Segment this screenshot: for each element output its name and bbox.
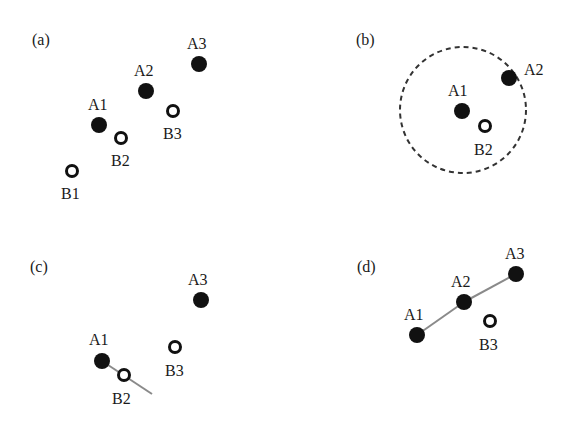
open-point-b3 [168,106,179,117]
point-label: B2 [474,141,493,158]
point-label: B3 [479,336,498,353]
open-point-b2 [480,121,491,132]
point-label: B3 [163,125,182,142]
point-label: B2 [111,152,130,169]
filled-point-a2 [138,83,154,99]
filled-point-a2 [501,70,517,86]
filled-point-a1 [409,327,425,343]
open-point-b1 [67,166,78,177]
filled-point-a3 [508,266,524,282]
point-label: B2 [112,390,131,407]
panel-label: (a) [32,31,50,49]
point-label: A3 [187,35,207,52]
connector-line [464,274,516,302]
open-point-b3 [170,342,181,353]
filled-point-a1 [94,353,110,369]
connector-line [417,302,464,335]
open-point-b2 [119,370,130,381]
diagram-canvas: (a)A1A2A3B1B2B3(b)A1A2B2(c)A1A3B2B3(d)A1… [0,0,572,426]
filled-point-a1 [91,117,107,133]
open-point-b2 [116,133,127,144]
panel-label: (d) [357,258,376,276]
panel-d: (d)A1A2A3B3 [357,245,525,353]
panel-a: (a)A1A2A3B1B2B3 [32,31,207,202]
point-label: A1 [88,96,108,113]
point-label: A1 [448,82,468,99]
panel-label: (b) [356,31,375,49]
filled-point-a3 [191,56,207,72]
panel-c: (c)A1A3B2B3 [30,258,209,407]
filled-point-a1 [454,103,470,119]
point-label: A1 [89,331,109,348]
point-label: A3 [188,271,208,288]
point-label: A2 [134,62,154,79]
point-label: A2 [451,273,471,290]
panel-b: (b)A1A2B2 [356,31,544,173]
point-label: B3 [165,362,184,379]
point-label: A3 [505,245,525,262]
filled-point-a2 [456,294,472,310]
diagram-svg: (a)A1A2A3B1B2B3(b)A1A2B2(c)A1A3B2B3(d)A1… [0,0,572,426]
point-label: B1 [61,185,80,202]
point-label: A2 [524,61,544,78]
panel-label: (c) [30,258,48,276]
open-point-b3 [485,316,496,327]
point-label: A1 [404,306,424,323]
filled-point-a3 [193,292,209,308]
